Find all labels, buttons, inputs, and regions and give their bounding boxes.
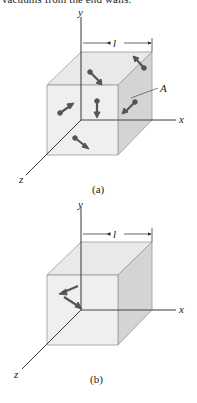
figure-b-caption: (b) (90, 373, 103, 386)
x-axis-label: x (178, 303, 184, 315)
figure-a: y x z l A (18, 6, 184, 196)
x-axis-label: x (178, 113, 184, 125)
figure-b: y x z l (b) (13, 198, 184, 386)
dimension-label-l: l (113, 228, 116, 240)
diagram-canvas: y x z l A (0, 0, 197, 403)
z-axis-label: z (13, 368, 19, 380)
y-axis-label: y (77, 6, 83, 18)
z-axis-label: z (18, 173, 24, 185)
y-axis-label: y (77, 198, 83, 210)
dimension-label-l: l (113, 37, 116, 49)
face-label-A: A (159, 82, 167, 94)
figure-a-caption: (a) (92, 183, 105, 196)
